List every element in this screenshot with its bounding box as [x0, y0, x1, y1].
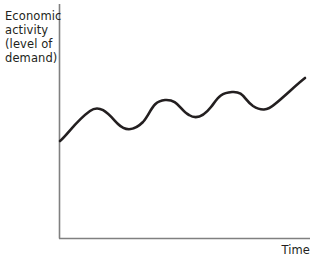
y-axis-label: Economic activity (level of demand)	[5, 9, 57, 65]
economic-activity-curve	[60, 78, 305, 141]
x-axis-label: Time	[240, 243, 310, 257]
business-cycle-figure: Economic activity (level of demand) Time	[0, 0, 319, 263]
